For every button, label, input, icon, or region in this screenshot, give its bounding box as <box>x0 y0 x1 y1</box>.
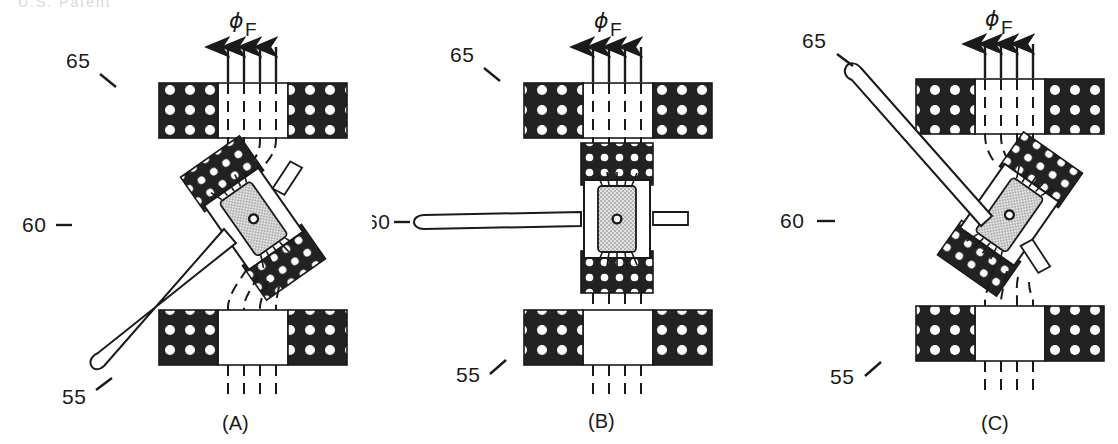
panel-c: ϕ F <box>745 0 1118 444</box>
bottom-magnet-block <box>916 306 1104 361</box>
rotor-core <box>598 186 636 252</box>
patent-figure: U.S. Patent <box>0 0 1118 444</box>
panel-caption-c: (C) <box>981 412 1009 434</box>
ref-label-55: 55 <box>830 365 854 388</box>
bottom-magnet-block <box>524 310 712 365</box>
flux-lines-tail <box>985 361 1033 392</box>
leader-55 <box>490 360 506 374</box>
rotor-stub-arm <box>653 212 688 225</box>
ref-label-65: 65 <box>450 43 474 66</box>
flux-symbol: ϕ <box>594 8 609 33</box>
ref-label-55: 55 <box>456 363 480 386</box>
flux-symbol: ϕ <box>229 8 244 33</box>
flux-subscript: F <box>1001 17 1013 38</box>
top-magnet-block <box>916 79 1104 134</box>
flux-arrows-top <box>985 44 1033 78</box>
panel-a: ϕ F <box>0 0 373 444</box>
pointer-needle <box>414 212 581 229</box>
pivot-point <box>613 215 622 224</box>
rotor-assembly <box>937 132 1104 312</box>
ref-label-60: 60 <box>372 210 390 233</box>
flux-arrows-top <box>593 47 641 82</box>
flux-subscript: F <box>245 19 257 40</box>
flux-arrows-top <box>228 47 276 82</box>
rotor-assembly <box>581 143 688 293</box>
leader-55 <box>96 378 112 390</box>
top-magnet-block <box>159 83 347 138</box>
flux-lines-tail <box>593 365 641 396</box>
ref-label-60: 60 <box>780 209 804 232</box>
flux-lines-lower <box>593 293 641 310</box>
rotor-assembly <box>180 117 352 300</box>
flux-symbol: ϕ <box>985 6 1000 31</box>
leader-65 <box>100 74 116 87</box>
leader-55 <box>865 362 881 376</box>
ref-label-65: 65 <box>802 29 826 52</box>
flux-subscript: F <box>610 19 622 40</box>
panel-caption-a: (A) <box>222 412 249 434</box>
panel-b: ϕ F <box>372 0 745 444</box>
flux-lines-tail <box>228 365 276 396</box>
ref-label-65: 65 <box>66 49 90 72</box>
ref-label-55: 55 <box>62 385 86 408</box>
leader-65 <box>484 68 500 81</box>
panel-caption-b: (B) <box>588 410 615 432</box>
ref-label-60: 60 <box>22 213 46 236</box>
leader-65 <box>837 54 853 66</box>
top-magnet-block <box>524 83 712 138</box>
bottom-magnet-block <box>159 310 347 365</box>
